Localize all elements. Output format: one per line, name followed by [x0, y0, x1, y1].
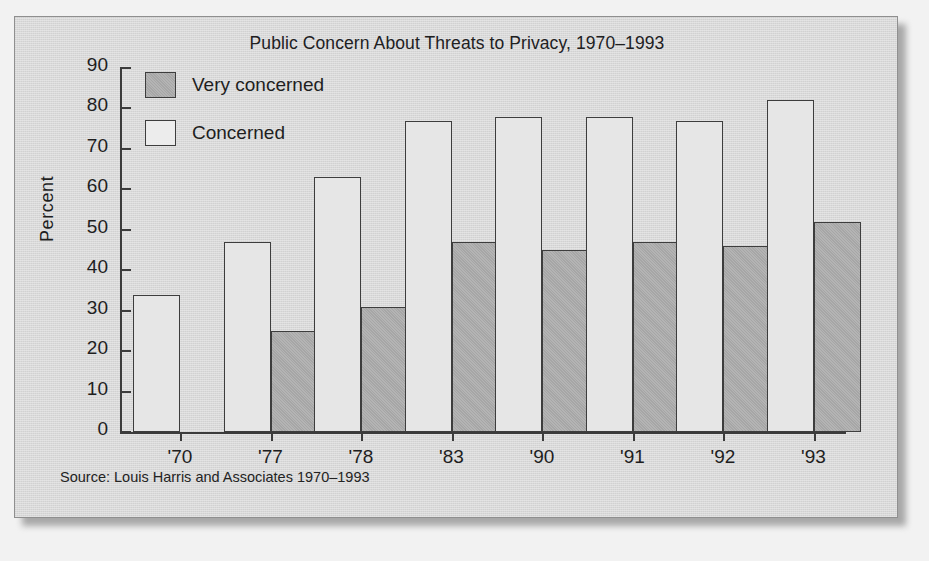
y-axis-tick-label: 40: [87, 257, 108, 277]
bar-concerned: [495, 117, 542, 432]
legend-item-very-concerned: Very concerned: [145, 72, 324, 98]
y-axis-tick: 50: [120, 229, 131, 231]
y-axis-tick: 30: [120, 310, 131, 312]
bar-very-concerned: [271, 331, 318, 432]
y-axis-tick-label: 70: [87, 136, 108, 156]
bar-very-concerned: [814, 222, 861, 432]
bar-group: [586, 68, 680, 432]
x-axis-tick-label: '92: [683, 446, 763, 468]
bar-concerned: [314, 177, 361, 432]
bar-group: [767, 68, 861, 432]
bar-very-concerned: [633, 242, 680, 432]
bar-concerned: [133, 295, 180, 433]
bar-group: [314, 68, 408, 432]
legend-label-very-concerned: Very concerned: [192, 74, 324, 96]
y-axis-tick: 0: [120, 431, 131, 433]
figure-panel: Public Concern About Threats to Privacy,…: [14, 16, 898, 518]
source-note: Source: Louis Harris and Associates 1970…: [60, 469, 370, 485]
x-axis-tick-label: '70: [140, 446, 220, 468]
y-axis-tick-label: 30: [87, 298, 108, 318]
y-axis-tick-label: 60: [87, 176, 108, 196]
x-axis-tick-label: '77: [231, 446, 311, 468]
x-axis-tick-label: '90: [502, 446, 582, 468]
y-axis-tick: 60: [120, 188, 131, 190]
x-axis-tick-label: '91: [593, 446, 673, 468]
bar-concerned: [224, 242, 271, 432]
y-axis-title: Percent: [37, 176, 58, 242]
bar-concerned: [676, 121, 723, 432]
legend-swatch-concerned-icon: [145, 120, 176, 146]
bar-very-concerned: [723, 246, 770, 432]
chart-legend: Very concerned Concerned: [145, 72, 324, 168]
y-axis-line: [120, 68, 122, 433]
legend-swatch-very-concerned-icon: [145, 72, 176, 98]
y-axis-tick: 80: [120, 107, 131, 109]
bar-very-concerned: [452, 242, 499, 432]
y-axis-tick-label: 10: [87, 379, 108, 399]
legend-label-concerned: Concerned: [192, 122, 285, 144]
bar-group: [405, 68, 499, 432]
y-axis-tick-label: 80: [87, 95, 108, 115]
y-axis-tick: 10: [120, 391, 131, 393]
bar-concerned: [767, 100, 814, 432]
chart-title: Public Concern About Threats to Privacy,…: [15, 33, 899, 54]
y-axis-tick: 90: [120, 67, 131, 69]
y-axis-tick: 20: [120, 350, 131, 352]
y-axis-tick-label: 20: [87, 338, 108, 358]
bar-group: [495, 68, 589, 432]
bar-very-concerned: [542, 250, 589, 432]
scanned-page-background: Public Concern About Threats to Privacy,…: [0, 0, 929, 561]
x-axis-tick-label: '93: [774, 446, 854, 468]
bar-very-concerned: [361, 307, 408, 432]
legend-item-concerned: Concerned: [145, 120, 324, 146]
y-axis-tick-label: 90: [87, 55, 108, 75]
bar-concerned: [586, 117, 633, 432]
x-axis-line: [120, 432, 846, 434]
x-axis-tick-label: '78: [321, 446, 401, 468]
bar-concerned: [405, 121, 452, 432]
bar-group: [676, 68, 770, 432]
y-axis-tick-label: 0: [97, 419, 108, 439]
y-axis-tick-label: 50: [87, 217, 108, 237]
x-axis-tick-label: '83: [412, 446, 492, 468]
y-axis-tick: 40: [120, 269, 131, 271]
y-axis-tick: 70: [120, 148, 131, 150]
